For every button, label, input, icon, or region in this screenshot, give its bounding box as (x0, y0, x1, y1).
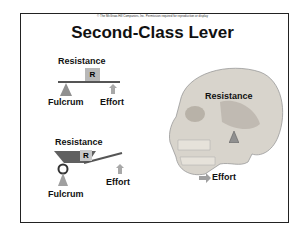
effort-arrow-up-icon (116, 164, 124, 174)
lever-resistance-label: Resistance (58, 56, 106, 66)
lever-fulcrum-label: Fulcrum (48, 97, 84, 107)
wheelbarrow-effort-label: Effort (106, 177, 130, 187)
lever-effort-label: Effort (100, 97, 124, 107)
wheelbarrow-resistance-label: Resistance (55, 137, 103, 147)
fulcrum-triangle-icon (60, 83, 72, 96)
skull-illustration (160, 62, 288, 182)
fulcrum-triangle-icon (58, 173, 68, 186)
jaw-fulcrum-triangle-icon (229, 131, 239, 143)
skull-effort-label: Effort (212, 172, 236, 182)
copyright-notice: © The McGraw-Hill Companies, Inc. Permis… (0, 14, 305, 18)
slide-title: Second-Class Lever (0, 23, 305, 43)
skull-resistance-label: Resistance (205, 91, 253, 101)
effort-arrow-up-icon (109, 84, 117, 94)
effort-arrow-right-icon (199, 173, 211, 183)
resistance-box: R (85, 68, 100, 81)
wheelbarrow-fulcrum-label: Fulcrum (48, 189, 84, 199)
wheelbarrow-resistance-box: R (80, 150, 92, 161)
